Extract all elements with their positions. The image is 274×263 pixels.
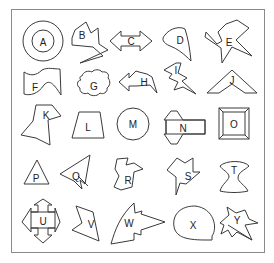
shape-q: Q bbox=[60, 155, 90, 189]
svg-text:T: T bbox=[231, 165, 237, 176]
svg-text:D: D bbox=[176, 35, 183, 46]
svg-text:H: H bbox=[140, 77, 147, 88]
svg-text:O: O bbox=[230, 119, 238, 130]
shape-c: C bbox=[110, 31, 152, 51]
shape-m: M bbox=[117, 108, 149, 140]
shape-l: L bbox=[72, 112, 104, 138]
shape-h: H bbox=[119, 71, 157, 93]
svg-text:C: C bbox=[127, 36, 134, 47]
shape-e: E bbox=[205, 20, 252, 63]
shape-i: I bbox=[164, 63, 196, 94]
svg-text:L: L bbox=[85, 122, 91, 133]
svg-text:K: K bbox=[43, 110, 50, 121]
svg-text:A: A bbox=[40, 37, 47, 48]
svg-text:E: E bbox=[226, 37, 233, 48]
svg-text:G: G bbox=[90, 81, 98, 92]
shape-g: G bbox=[77, 70, 109, 96]
svg-text:F: F bbox=[32, 82, 38, 93]
shape-d: D bbox=[163, 28, 191, 61]
svg-text:S: S bbox=[185, 171, 192, 182]
shape-a: A bbox=[23, 21, 63, 61]
shape-o: O bbox=[219, 108, 249, 139]
shape-f: F bbox=[24, 68, 61, 95]
svg-text:J: J bbox=[230, 75, 235, 86]
shape-s: S bbox=[167, 158, 200, 195]
svg-text:R: R bbox=[124, 175, 131, 186]
svg-text:X: X bbox=[190, 220, 197, 231]
svg-text:Q: Q bbox=[72, 171, 80, 182]
svg-text:N: N bbox=[179, 123, 186, 134]
svg-text:U: U bbox=[39, 216, 46, 227]
svg-text:W: W bbox=[124, 218, 134, 229]
svg-text:Y: Y bbox=[234, 215, 241, 226]
svg-text:V: V bbox=[88, 219, 95, 230]
shapes-canvas: A B C D E F G H I J K L bbox=[0, 0, 274, 263]
svg-text:B: B bbox=[79, 30, 86, 41]
shape-x: X bbox=[174, 206, 215, 240]
shape-k: K bbox=[21, 105, 61, 145]
shape-w: W bbox=[111, 203, 165, 244]
shape-v: V bbox=[72, 206, 99, 241]
shape-n: N bbox=[164, 111, 205, 144]
shape-y: Y bbox=[220, 207, 258, 240]
svg-text:P: P bbox=[33, 173, 40, 184]
svg-text:I: I bbox=[175, 65, 178, 76]
shape-j: J bbox=[207, 70, 257, 93]
shape-p: P bbox=[24, 160, 49, 184]
shape-r: R bbox=[114, 158, 143, 190]
svg-text:M: M bbox=[129, 119, 137, 130]
shape-b: B bbox=[72, 22, 108, 63]
shape-t: T bbox=[220, 162, 249, 193]
shape-u: U bbox=[22, 199, 60, 243]
